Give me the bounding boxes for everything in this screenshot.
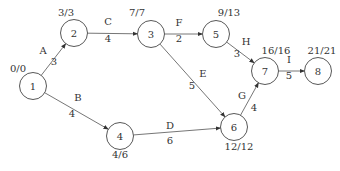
node-early-late-times: 21/21 [308,45,337,56]
activity-duration: 3 [51,56,57,67]
event-node-7: 716/16 [252,45,291,85]
node-number: 6 [231,122,237,133]
event-node-8: 821/21 [305,45,337,85]
activity-label: F [176,17,183,28]
activity-duration: 4 [105,33,111,44]
event-node-3: 37/7 [129,7,165,48]
node-number: 3 [148,29,154,40]
event-node-6: 612/12 [221,114,254,153]
activity-d-arrow: D6 [133,120,220,146]
activity-a-arrow: A3 [38,44,65,76]
node-early-late-times: 4/6 [112,149,128,160]
activity-duration: 5 [286,70,292,81]
activity-b-arrow: B4 [45,92,109,129]
activity-f-arrow: F2 [165,17,203,44]
node-early-late-times: 7/7 [129,7,145,18]
activity-label: C [104,16,112,27]
arrow-icon [87,33,137,34]
node-early-late-times: 9/13 [218,7,240,18]
activity-duration: 6 [167,135,173,146]
node-early-late-times: 16/16 [262,45,291,56]
activity-duration: 2 [176,33,182,44]
event-node-1: 10/0 [10,63,47,100]
activity-h-arrow: H3 [227,36,254,63]
event-node-4: 44/6 [107,123,134,161]
activity-duration: 3 [234,48,240,59]
activity-i-arrow: I5 [279,54,305,81]
node-early-late-times: 0/0 [10,63,26,74]
activity-duration: 4 [251,102,257,113]
activity-label: G [238,90,246,101]
event-node-5: 59/13 [203,7,241,48]
activity-e-arrow: E5 [160,44,225,117]
node-number: 7 [262,66,268,77]
node-early-late-times: 3/3 [58,7,74,18]
node-number: 1 [30,81,36,92]
activity-label: A [38,45,47,56]
activity-label: E [199,68,206,79]
network-diagram: A3B4C4D6E5F2G4H3I5 10/023/337/744/659/13… [0,0,340,171]
activity-duration: 4 [69,108,75,119]
node-number: 4 [117,131,123,142]
node-early-late-times: 12/12 [225,141,254,152]
activity-label: B [74,92,81,103]
activity-label: H [242,36,251,47]
activity-duration: 5 [189,80,195,91]
node-number: 5 [213,29,219,40]
arrow-icon [133,128,220,135]
node-number: 2 [71,28,77,39]
activity-c-arrow: C4 [87,16,137,44]
activity-label: D [166,120,174,131]
activity-g-arrow: G4 [238,83,258,115]
node-number: 8 [315,66,321,77]
event-node-2: 23/3 [58,7,88,47]
